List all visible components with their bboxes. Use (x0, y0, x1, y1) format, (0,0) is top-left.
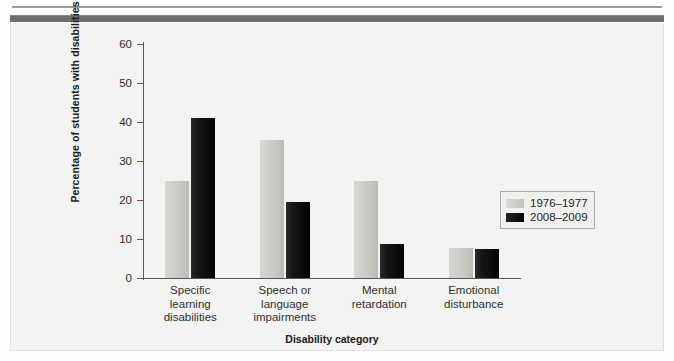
bar-plot-area (143, 44, 520, 278)
bar-series1-cat1 (165, 181, 189, 278)
bar-series1-cat2 (260, 140, 284, 278)
y-axis-tick-label: 50 (119, 75, 132, 91)
x-axis-tick-label-3: Mental retardation (332, 284, 427, 311)
y-axis-title: Percentage of students with disabilities (69, 0, 81, 222)
x-axis-tick-label-4: Emotional disturbance (427, 284, 522, 311)
bar-series2-cat4 (475, 249, 499, 278)
top-hairline-divider (12, 6, 662, 8)
legend-swatch-icon-2008-2009 (506, 213, 524, 222)
y-axis-tick-label: 60 (119, 36, 132, 52)
x-axis-title: Disability category (143, 333, 521, 345)
y-axis-tick-label: 10 (119, 231, 132, 247)
figure-container: Percentage of students with disabilities… (0, 0, 674, 361)
y-axis-tick-label: 40 (119, 114, 132, 130)
x-axis-tick-label-1: Specific learning disabilities (143, 284, 238, 325)
x-axis-line (143, 278, 521, 279)
bar-series1-cat4 (449, 248, 473, 278)
y-axis-tick-label: 30 (119, 153, 132, 169)
bar-series2-cat3 (380, 244, 404, 278)
y-axis-tick: 0 (137, 278, 144, 279)
legend-item-2008-2009: 2008–2009 (506, 210, 588, 224)
legend-swatch-icon-1976-1977 (506, 199, 524, 208)
legend-label-2008-2009: 2008–2009 (530, 211, 588, 223)
y-axis-tick-label: 0 (126, 270, 132, 286)
legend-item-1976-1977: 1976–1977 (506, 196, 588, 210)
bar-series2-cat1 (191, 118, 215, 278)
y-axis-tick-label: 20 (119, 192, 132, 208)
bar-series1-cat3 (354, 181, 378, 278)
y-axis-tick-mark (137, 278, 144, 279)
chart-legend: 1976–1977 2008–2009 (500, 191, 595, 229)
bar-series2-cat2 (286, 202, 310, 278)
header-rule-bar (10, 15, 664, 22)
legend-label-1976-1977: 1976–1977 (530, 197, 588, 209)
x-axis-tick-label-2: Speech or language impairments (238, 284, 333, 325)
